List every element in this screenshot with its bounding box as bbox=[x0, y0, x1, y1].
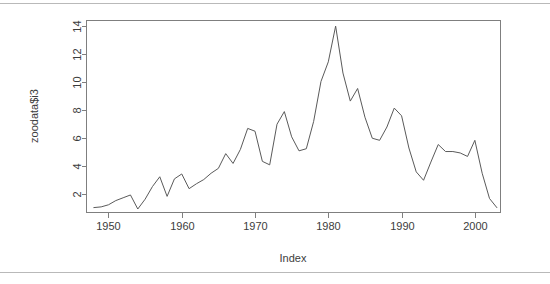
y-tick-label: 14 bbox=[71, 20, 83, 32]
y-tick-label: 2 bbox=[71, 191, 83, 197]
x-axis-ticks bbox=[109, 213, 476, 218]
data-series-line bbox=[94, 26, 497, 209]
y-tick-label: 8 bbox=[71, 107, 83, 113]
x-axis-title: Index bbox=[280, 252, 307, 264]
x-tick-label: 1960 bbox=[170, 220, 194, 232]
x-tick-label: 1980 bbox=[316, 220, 340, 232]
chart-canvas: 2468101214 195019601970198019902000 Inde… bbox=[0, 0, 550, 284]
y-tick-label: 4 bbox=[71, 163, 83, 169]
y-tick-label: 12 bbox=[71, 48, 83, 60]
x-tick-label: 2000 bbox=[463, 220, 487, 232]
y-axis-tick-labels: 2468101214 bbox=[71, 20, 83, 197]
figure-root: 2468101214 195019601970198019902000 Inde… bbox=[0, 0, 550, 284]
y-axis-title: zoodata$i3 bbox=[28, 89, 40, 143]
x-tick-label: 1990 bbox=[390, 220, 414, 232]
x-tick-label: 1970 bbox=[243, 220, 267, 232]
y-tick-label: 10 bbox=[71, 76, 83, 88]
x-tick-label: 1950 bbox=[96, 220, 120, 232]
x-axis-tick-labels: 195019601970198019902000 bbox=[96, 220, 487, 232]
y-tick-label: 6 bbox=[71, 135, 83, 141]
plot-frame-box bbox=[87, 21, 501, 213]
